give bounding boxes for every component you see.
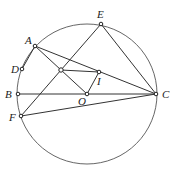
label-B: B (5, 88, 12, 100)
point-C (154, 92, 158, 96)
label-O: O (78, 95, 86, 107)
segment-AD (22, 46, 35, 69)
segment-FC (21, 94, 156, 116)
point-F (19, 114, 23, 118)
point-I (97, 70, 101, 74)
point-P (59, 68, 63, 72)
geometry-diagram: ADBFECOI (0, 0, 175, 181)
segment-PI (61, 70, 99, 72)
label-E: E (96, 8, 104, 20)
label-I: I (96, 75, 102, 87)
point-D (20, 67, 24, 71)
segment-AC (35, 46, 156, 94)
label-D: D (10, 63, 19, 75)
point-A (33, 44, 37, 48)
label-C: C (162, 88, 170, 100)
label-F: F (8, 111, 16, 123)
point-E (99, 22, 103, 26)
label-A: A (24, 34, 32, 46)
point-B (16, 92, 20, 96)
